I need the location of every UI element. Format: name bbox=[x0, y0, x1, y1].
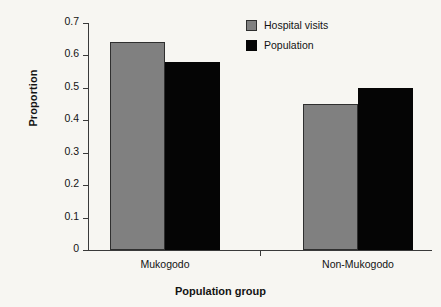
legend: Hospital visitsPopulation bbox=[246, 16, 328, 56]
y-tick: 0.3 bbox=[83, 153, 88, 154]
bar bbox=[358, 88, 413, 250]
y-tick-label: 0.3 bbox=[64, 145, 79, 157]
y-tick: 0 bbox=[83, 250, 88, 251]
y-tick-label: 0.2 bbox=[64, 177, 79, 189]
x-axis-label: Population group bbox=[0, 285, 441, 297]
x-tick bbox=[260, 251, 261, 256]
y-tick: 0.2 bbox=[83, 185, 88, 186]
y-tick-label: 0.4 bbox=[64, 112, 79, 124]
y-axis-line bbox=[88, 23, 89, 251]
bar bbox=[303, 104, 358, 250]
legend-item: Hospital visits bbox=[246, 16, 328, 34]
y-tick-label: 0.6 bbox=[64, 47, 79, 59]
x-category-label: Non-Mukogodo bbox=[322, 258, 394, 270]
legend-swatch bbox=[246, 20, 257, 31]
y-tick: 0.4 bbox=[83, 120, 88, 121]
bar-chart: Proportion 00.10.20.30.40.50.60.7 Mukogo… bbox=[0, 0, 441, 307]
y-tick: 0.6 bbox=[83, 55, 88, 56]
y-tick-label: 0.7 bbox=[64, 15, 79, 27]
bar bbox=[110, 42, 165, 250]
legend-swatch bbox=[246, 40, 257, 51]
x-category-label: Mukogodo bbox=[140, 258, 189, 270]
y-tick-label: 0.1 bbox=[64, 210, 79, 222]
legend-label: Hospital visits bbox=[264, 19, 328, 31]
y-axis-label: Proportion bbox=[27, 43, 39, 153]
y-tick: 0.7 bbox=[83, 23, 88, 24]
plot-area: 00.10.20.30.40.50.60.7 bbox=[88, 23, 432, 250]
legend-label: Population bbox=[264, 39, 314, 51]
legend-item: Population bbox=[246, 36, 328, 54]
y-tick-label: 0.5 bbox=[64, 80, 79, 92]
y-tick: 0.5 bbox=[83, 88, 88, 89]
y-tick-label: 0 bbox=[73, 242, 79, 254]
y-tick: 0.1 bbox=[83, 218, 88, 219]
bar bbox=[165, 62, 220, 250]
